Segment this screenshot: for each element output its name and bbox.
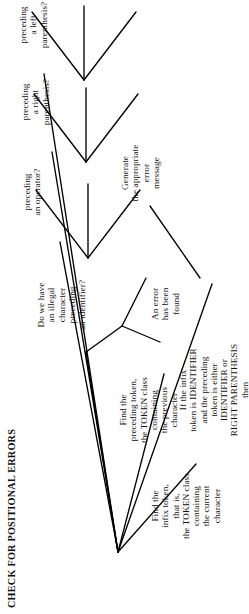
node-generate-error-message: Generate the appropriate error message — [120, 124, 161, 222]
node-if-the-infix-rule: If the infix token is IDENTIFIER and the… — [178, 306, 241, 474]
node-preceding-an-operator: preceding an operator? — [22, 150, 43, 234]
page-title: CHECK FOR POSITIONAL ERRORS — [6, 429, 17, 608]
edge-hub-to-right-paren — [52, 152, 118, 552]
edge-lparen-fork-down — [84, 12, 136, 80]
edge-operator-fork-up — [36, 190, 88, 258]
node-an-error-has-been-found: An error has been found — [150, 266, 181, 342]
node-illegal-character-identifier: Do we have an illegal character precedin… — [36, 262, 87, 348]
node-preceding-a-right-parenthesis: preceding a right parenthesis? — [20, 60, 51, 144]
node-find-preceding-token: Find the preceding token, the TOKEN clas… — [118, 358, 180, 462]
node-preceding-a-left-parenthesis: preceding a left parenthesis? — [18, 0, 49, 66]
diagram-canvas: CHECK FOR POSITIONAL ERRORS Find the inf… — [0, 0, 241, 614]
edge-illegal-to-error — [122, 278, 146, 326]
edge-hub-to-illegal — [86, 352, 118, 552]
edge-illegal-fork-up — [86, 326, 122, 352]
